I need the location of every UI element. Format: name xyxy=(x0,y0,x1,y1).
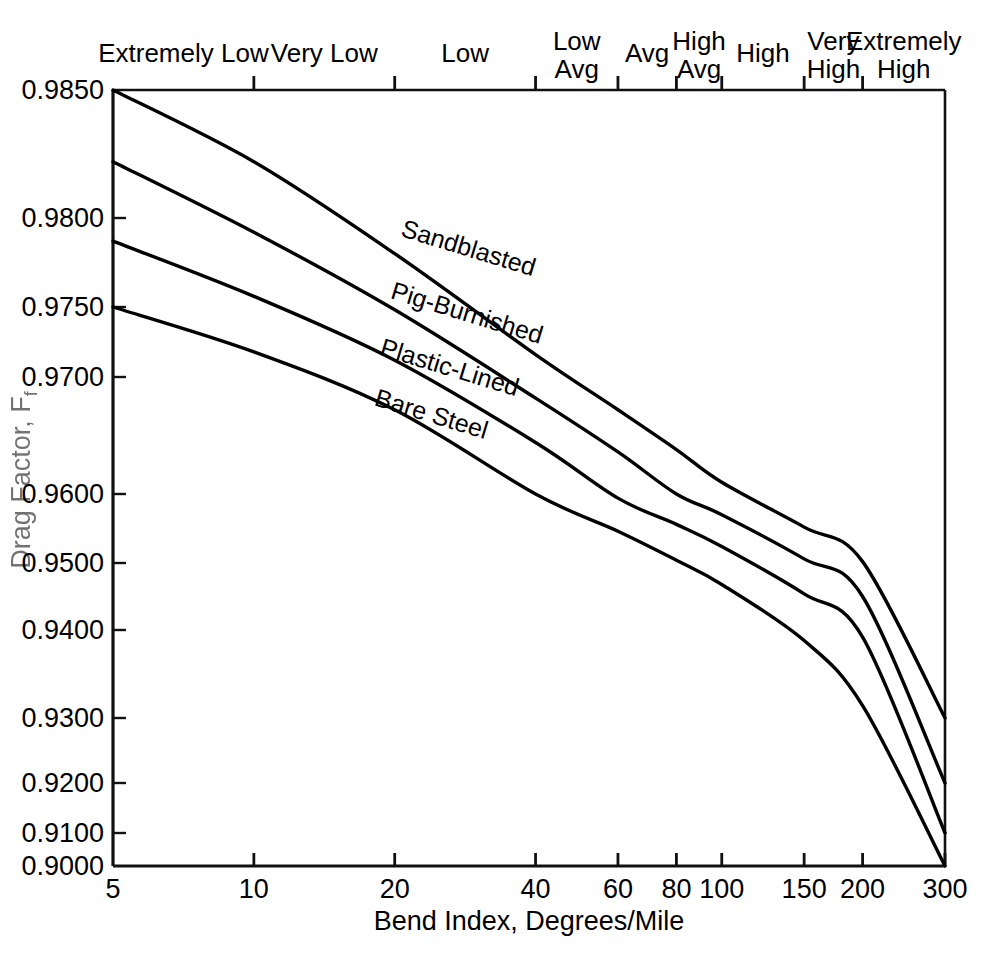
y-axis-tick-label: 0.9800 xyxy=(21,203,104,233)
x-axis-tick-label: 150 xyxy=(782,874,827,904)
y-axis-tick-label: 0.9750 xyxy=(21,292,104,322)
top-category-label-line2: High xyxy=(807,54,860,84)
plot-frame xyxy=(113,90,945,866)
x-axis-tick-label: 40 xyxy=(521,874,551,904)
y-axis-title: Drag Factor, Ff xyxy=(6,390,41,569)
top-category-label: Low xyxy=(441,38,489,68)
x-axis-tick-labels: 51020406080100150200300 xyxy=(105,874,967,904)
x-axis-tick-label: 5 xyxy=(105,874,120,904)
x-axis-tick-label: 60 xyxy=(603,874,633,904)
top-category-label-line2: High xyxy=(877,54,930,84)
y-axis-tick-label: 0.9200 xyxy=(21,768,104,798)
top-category-label: Low xyxy=(553,26,601,56)
series-curve-sandblasted xyxy=(113,90,945,718)
y-axis-tick-label: 0.9100 xyxy=(21,818,104,848)
top-category-label: Extremely xyxy=(846,26,962,56)
y-axis-title-group: Drag Factor, Ff xyxy=(6,390,41,569)
y-axis-tick-label: 0.9850 xyxy=(21,75,104,105)
x-axis-tick-label: 100 xyxy=(699,874,744,904)
x-axis-title: Bend Index, Degrees/Mile xyxy=(374,906,685,936)
x-axis-tick-label: 10 xyxy=(239,874,269,904)
x-axis-ticks xyxy=(254,853,945,866)
drag-factor-vs-bend-index-chart: Extremely LowVery LowLowLowAvgAvgHighAvg… xyxy=(0,0,1007,956)
top-category-label: Avg xyxy=(625,38,669,68)
chart-figure: Extremely LowVery LowLowLowAvgAvgHighAvg… xyxy=(0,0,1007,956)
x-axis-tick-label: 300 xyxy=(922,874,967,904)
y-axis-tick-label: 0.9300 xyxy=(21,703,104,733)
top-category-label: Extremely Low xyxy=(98,38,269,68)
x-axis-tick-label: 200 xyxy=(840,874,885,904)
curve-label-pig-burnished: Pig-Burnished xyxy=(388,276,546,349)
top-category-label: Very Low xyxy=(271,38,378,68)
curve-label-bare-steel: Bare Steel xyxy=(372,383,492,444)
x-axis-tick-label: 80 xyxy=(661,874,691,904)
top-category-label: High xyxy=(672,26,725,56)
x-axis-tick-label: 20 xyxy=(380,874,410,904)
series-curve-bare-steel xyxy=(113,307,945,866)
y-axis-title-text: Drag Factor, F xyxy=(6,396,36,569)
top-category-label: High xyxy=(736,38,789,68)
top-category-label-line2: Avg xyxy=(555,54,599,84)
y-axis-tick-label: 0.9000 xyxy=(21,851,104,881)
top-axis-category-labels: Extremely LowVery LowLowLowAvgAvgHighAvg… xyxy=(98,26,961,84)
y-axis-tick-label: 0.9400 xyxy=(21,615,104,645)
curve-series-labels: SandblastedPig-BurnishedPlastic-LinedBar… xyxy=(372,214,547,444)
data-curves xyxy=(113,90,945,866)
y-axis-tick-label: 0.9700 xyxy=(21,362,104,392)
top-category-label-line2: Avg xyxy=(677,54,721,84)
